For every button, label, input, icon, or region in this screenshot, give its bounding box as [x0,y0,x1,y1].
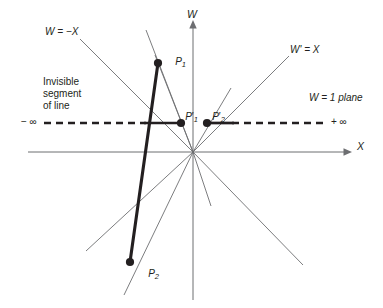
ray-lower-right-b [193,152,303,265]
label-point-p1-letter: P [175,56,182,67]
x-axis-label: X [357,140,364,152]
label-point-p1-subscript: 1 [182,60,186,69]
label-point-p2-subscript: 2 [155,272,159,281]
label-invisible-line-2: segment [43,88,81,100]
point-p1-dot [154,59,162,67]
label-plus-infinity: + ∞ [331,116,347,128]
label-point-p2-prime-subscript: 2 [221,115,225,124]
point-p2-dot [126,258,134,266]
label-point-p1: P1 [164,44,186,79]
label-point-p1-prime: P′1 [174,99,198,134]
arrow-right-icon [344,148,353,155]
construction-rays [80,30,303,295]
label-minus-infinity: − ∞ [21,116,37,128]
ray-lower-right-a [193,152,211,206]
label-w-equals-minus-x: W = −X [45,26,78,38]
label-invisible-line-3: of line [43,100,70,112]
label-point-p2: P2 [137,256,159,291]
label-point-p2-prime-letter: P [212,111,219,122]
w-axis-label: W [187,8,197,20]
label-point-p1-prime-subscript: 1 [194,115,198,124]
figure-canvas: W X W = −X W' = X W = 1 plane Invisible … [0,0,383,308]
label-point-p2-letter: P [148,268,155,279]
label-point-p2-prime: P′2 [201,99,225,134]
label-w-equals-1-plane: W = 1 plane [309,92,363,104]
label-invisible-line-1: Invisible [43,76,79,88]
label-point-p1-prime-letter: P [185,111,192,122]
arrow-up-icon [189,20,196,29]
axes-group [28,26,346,300]
label-w-prime-equals-x: W' = X [290,44,319,56]
diagram-svg [0,0,383,308]
